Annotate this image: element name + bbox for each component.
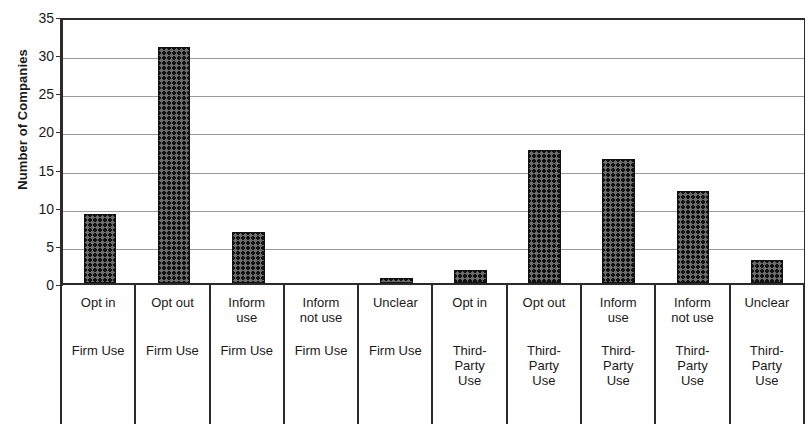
plot-area	[60, 18, 805, 285]
bar[interactable]	[380, 278, 413, 283]
category-name: Informnot use	[658, 295, 726, 325]
bar[interactable]	[602, 159, 635, 283]
category-group: Third-PartyUse	[584, 343, 652, 388]
category-group: Firm Use	[64, 343, 132, 358]
bar-slot	[211, 20, 285, 283]
category-name: Opt in	[64, 295, 132, 310]
category-group: Third-PartyUse	[733, 343, 801, 388]
category-group: Firm Use	[138, 343, 206, 358]
category-group: Third-PartyUse	[658, 343, 726, 388]
bar-slot	[63, 20, 137, 283]
category-cell: Informnot useFirm Use	[285, 285, 359, 424]
category-cell: UnclearThird-PartyUse	[731, 285, 805, 424]
bar-slot	[656, 20, 730, 283]
bar-slot	[285, 20, 359, 283]
category-name: Unclear	[361, 295, 429, 310]
bar[interactable]	[84, 214, 117, 283]
bar[interactable]	[528, 150, 561, 284]
bar[interactable]	[677, 191, 710, 283]
category-name: Opt in	[435, 295, 503, 310]
bar-slot	[508, 20, 582, 283]
bar[interactable]	[232, 232, 265, 283]
bar[interactable]	[454, 270, 487, 283]
bar-slot	[582, 20, 656, 283]
bar-chart-figure: Number of Companies 35302520151050 Opt i…	[0, 0, 812, 424]
bar-slot	[730, 20, 804, 283]
bar[interactable]	[751, 260, 784, 283]
category-group: Firm Use	[361, 343, 429, 358]
y-tick-label-35: 35	[26, 11, 54, 25]
bar[interactable]	[158, 47, 191, 283]
y-tick-label-30: 30	[26, 49, 54, 63]
category-group: Firm Use	[213, 343, 281, 358]
category-cell: Opt outFirm Use	[136, 285, 210, 424]
y-axis-tick-labels: 35302520151050	[26, 0, 54, 424]
bar-series	[63, 20, 804, 283]
category-name: Opt out	[510, 295, 578, 310]
y-tick-label-20: 20	[26, 125, 54, 139]
y-tick-label-10: 10	[26, 202, 54, 216]
bar-slot	[137, 20, 211, 283]
category-label-table: Opt inFirm UseOpt outFirm UseInformuseFi…	[60, 285, 805, 424]
category-cell: Opt outThird-PartyUse	[508, 285, 582, 424]
y-tick-label-5: 5	[26, 240, 54, 254]
clipped-title	[250, 0, 580, 6]
category-name: Opt out	[138, 295, 206, 310]
category-cell: Opt inFirm Use	[62, 285, 136, 424]
category-cell: InformuseFirm Use	[211, 285, 285, 424]
category-name: Unclear	[733, 295, 801, 310]
category-name: Informuse	[584, 295, 652, 325]
bar-slot	[433, 20, 507, 283]
y-tick-label-15: 15	[26, 164, 54, 178]
category-group: Firm Use	[287, 343, 355, 358]
category-cell: Informnot useThird-PartyUse	[656, 285, 730, 424]
bar-slot	[359, 20, 433, 283]
category-cell: InformuseThird-PartyUse	[582, 285, 656, 424]
category-name: Informuse	[213, 295, 281, 325]
category-cell: UnclearFirm Use	[359, 285, 433, 424]
category-group: Third-PartyUse	[435, 343, 503, 388]
y-tick-label-0: 0	[26, 278, 54, 292]
y-tick-label-25: 25	[26, 87, 54, 101]
category-group: Third-PartyUse	[510, 343, 578, 388]
category-cell: Opt inThird-PartyUse	[433, 285, 507, 424]
category-name: Informnot use	[287, 295, 355, 325]
